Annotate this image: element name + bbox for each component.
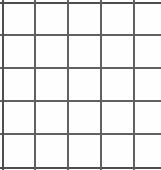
grid-cell[interactable] [4,36,34,67]
grid-line-horizontal [0,67,161,69]
grid-cell[interactable] [69,4,100,34]
grid-line-horizontal [0,100,161,102]
grid-cell[interactable] [69,135,100,167]
grid-cell[interactable] [69,36,100,67]
grid-line-vertical [67,0,69,170]
grid-cell[interactable] [135,102,161,133]
grid-cell[interactable] [4,4,34,34]
grid-line-vertical [100,0,102,170]
grid-cell[interactable] [36,36,67,67]
grid-border-horizontal [0,2,161,4]
grid-cell[interactable] [36,69,67,100]
grid-cell[interactable] [102,69,133,100]
grid-line-vertical [133,0,135,170]
grid-cell[interactable] [102,36,133,67]
grid-canvas [0,0,161,170]
grid-line-horizontal [0,34,161,36]
grid-cell[interactable] [36,4,67,34]
grid-cell[interactable] [135,36,161,67]
grid-line-horizontal [0,133,161,135]
grid-cell[interactable] [102,4,133,34]
grid-figure [0,0,161,170]
grid-border-vertical [2,0,4,170]
grid-cell[interactable] [36,135,67,167]
grid-cell[interactable] [36,102,67,133]
grid-cell[interactable] [102,102,133,133]
grid-cell[interactable] [102,135,133,167]
grid-border-horizontal [0,167,161,169]
grid-cell[interactable] [135,69,161,100]
grid-cell[interactable] [69,69,100,100]
grid-cell[interactable] [4,135,34,167]
grid-cell[interactable] [4,69,34,100]
grid-cell[interactable] [69,102,100,133]
grid-cell[interactable] [4,102,34,133]
grid-cell[interactable] [135,135,161,167]
grid-cell[interactable] [135,4,161,34]
grid-line-vertical [34,0,36,170]
